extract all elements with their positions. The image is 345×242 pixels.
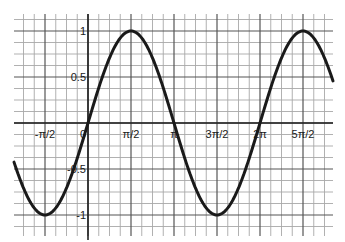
x-tick-label: 3π/2 [206, 128, 229, 140]
sine-chart: -π/20π/2π3π/22π5π/2 10.5-0.5-1 [0, 0, 345, 242]
x-tick-label: π [170, 128, 178, 140]
x-tick-labels: -π/20π/2π3π/22π5π/2 [35, 128, 315, 140]
x-tick-label: 5π/2 [292, 128, 315, 140]
y-tick-label: 0.5 [71, 71, 86, 83]
x-tick-label: 0 [80, 128, 86, 140]
y-tick-label: -1 [76, 209, 86, 221]
y-tick-label: 1 [80, 25, 86, 37]
x-tick-label: -π/2 [35, 128, 55, 140]
x-tick-label: π/2 [123, 128, 140, 140]
y-tick-label: -0.5 [67, 163, 86, 175]
x-tick-label: 2π [253, 128, 267, 140]
